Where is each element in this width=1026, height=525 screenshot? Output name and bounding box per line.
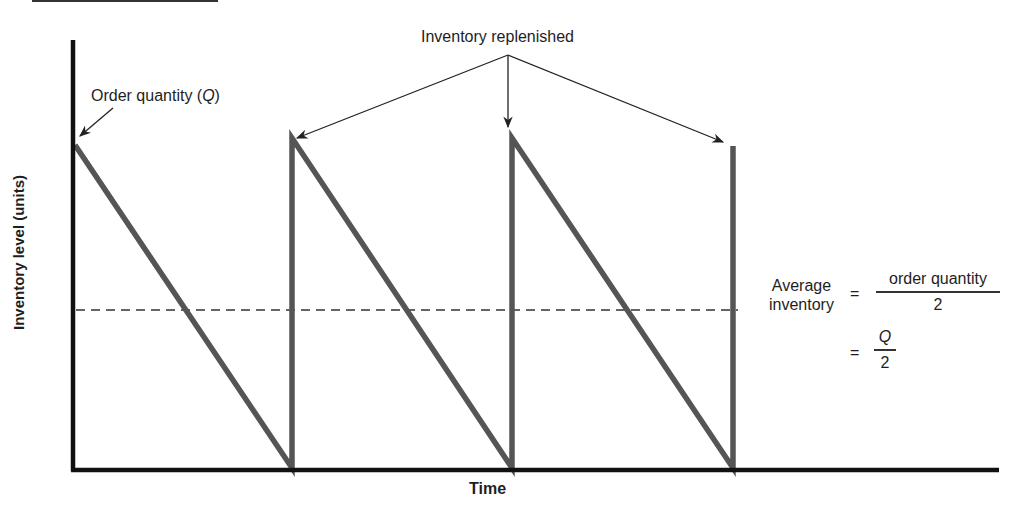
formula-lhs-line1: Average [769, 276, 834, 295]
fraction-1-numerator: order quantity [876, 270, 1000, 291]
fraction-2-numerator: Q [874, 328, 896, 349]
fraction-1-denominator: 2 [876, 293, 1000, 314]
formula-lhs: Average inventory [769, 276, 834, 314]
order-quantity-arrow [80, 108, 113, 136]
order-quantity-label: Order quantity (Q) [91, 87, 220, 105]
y-axis-label: Inventory level (units) [10, 175, 27, 330]
inventory-sawtooth [75, 138, 733, 468]
x-axis-label: Time [469, 480, 506, 498]
formula-equals-2: = [850, 344, 859, 362]
inventory-replenished-label: Inventory replenished [421, 28, 574, 46]
formula-lhs-line2: inventory [769, 295, 834, 314]
fraction-2-denominator: 2 [874, 351, 896, 372]
replenished-arrow-3 [508, 55, 723, 142]
formula-fraction-2: Q 2 [874, 328, 896, 372]
formula-equals-1: = [850, 285, 859, 303]
inventory-diagram [0, 0, 1026, 525]
replenished-arrow-1 [297, 55, 508, 138]
formula-fraction-1: order quantity 2 [876, 270, 1000, 314]
